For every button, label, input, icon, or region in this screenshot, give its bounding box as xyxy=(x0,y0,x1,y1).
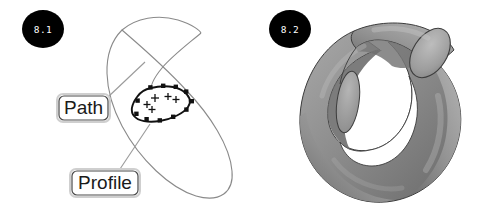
callout-profile[interactable]: Profile xyxy=(70,169,140,197)
control-point xyxy=(184,89,188,93)
badge-8-2-label: 8.2 xyxy=(281,24,300,35)
panel-8-1: Path Profile 8.1 xyxy=(0,0,262,219)
control-point xyxy=(161,84,165,88)
callout-path[interactable]: Path xyxy=(57,94,110,122)
callout-profile-label: Profile xyxy=(78,172,132,193)
badge-8-2: 8.2 xyxy=(269,10,311,48)
panel-8-1-canvas: Path Profile 8.1 xyxy=(0,0,262,219)
callout-path-label: Path xyxy=(64,97,103,118)
figure-root: Path Profile 8.1 xyxy=(0,0,503,219)
control-point xyxy=(190,99,194,103)
badge-8-1: 8.1 xyxy=(22,10,64,48)
control-point xyxy=(144,117,148,121)
control-point xyxy=(134,112,138,116)
control-point xyxy=(174,85,178,89)
panel-8-2-canvas: 8.2 xyxy=(262,0,503,219)
control-point xyxy=(148,85,152,89)
control-point xyxy=(158,118,162,122)
panel-8-2: 8.2 xyxy=(262,0,503,219)
control-point xyxy=(171,115,175,119)
control-point xyxy=(135,98,139,102)
control-point xyxy=(184,107,188,111)
badge-8-1-label: 8.1 xyxy=(34,24,53,35)
